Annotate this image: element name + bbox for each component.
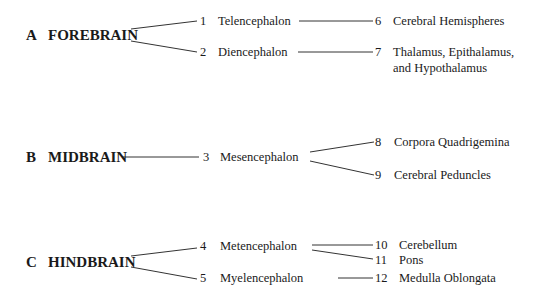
vesicle-metencephalon: Metencephalon bbox=[220, 239, 297, 253]
vesicle-num-5: 5 bbox=[200, 271, 206, 285]
derivative-hypothalamus: and Hypothalamus bbox=[393, 61, 487, 75]
line-hindbrain-metencephalon bbox=[131, 248, 197, 256]
derivative-medulla-oblongata: Medulla Oblongata bbox=[399, 271, 496, 285]
line-mesencephalon-9 bbox=[310, 161, 374, 175]
derivative-num-6: 6 bbox=[375, 14, 381, 28]
derivative-cerebral-peduncles: Cerebral Peduncles bbox=[394, 168, 491, 182]
line-forebrain-diencephalon bbox=[131, 41, 197, 52]
derivative-cerebral-hemispheres: Cerebral Hemispheres bbox=[393, 14, 504, 28]
derivative-corpora-quadrigemina: Corpora Quadrigemina bbox=[394, 135, 510, 149]
derivative-num-9: 9 bbox=[375, 168, 381, 182]
line-mesencephalon-8 bbox=[310, 142, 374, 152]
derivative-cerebellum: Cerebellum bbox=[399, 238, 457, 252]
division-letter-a: A bbox=[26, 27, 37, 43]
line-forebrain-telencephalon bbox=[131, 21, 197, 29]
division-forebrain: FOREBRAIN bbox=[48, 27, 138, 43]
line-hindbrain-myelencephalon bbox=[131, 267, 197, 279]
division-letter-c: C bbox=[26, 254, 37, 270]
division-letter-b: B bbox=[26, 149, 36, 165]
vesicle-num-3: 3 bbox=[203, 150, 209, 164]
derivative-num-10: 10 bbox=[375, 238, 388, 252]
vesicle-myelencephalon: Myelencephalon bbox=[220, 271, 303, 285]
derivative-pons: Pons bbox=[399, 253, 423, 267]
vesicle-num-4: 4 bbox=[200, 239, 206, 253]
line-metencephalon-11 bbox=[312, 250, 373, 259]
vesicle-telencephalon: Telencephalon bbox=[218, 14, 291, 28]
derivative-thalamus: Thalamus, Epithalamus, bbox=[393, 45, 514, 59]
derivative-num-11: 11 bbox=[375, 253, 387, 267]
derivative-num-7: 7 bbox=[375, 45, 381, 59]
vesicle-num-1: 1 bbox=[200, 14, 206, 28]
division-midbrain: MIDBRAIN bbox=[48, 149, 127, 165]
derivative-num-8: 8 bbox=[375, 135, 381, 149]
vesicle-mesencephalon: Mesencephalon bbox=[220, 150, 298, 164]
vesicle-num-2: 2 bbox=[200, 45, 206, 59]
derivative-num-12: 12 bbox=[375, 271, 388, 285]
vesicle-diencephalon: Diencephalon bbox=[218, 45, 287, 59]
division-hindbrain: HINDBRAIN bbox=[48, 254, 136, 270]
